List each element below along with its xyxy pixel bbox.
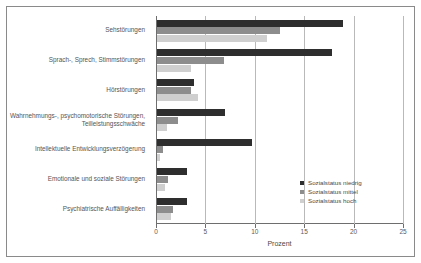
legend-item: Sozialstatus hoch — [300, 196, 362, 205]
category-label: Sehstörungen — [0, 26, 145, 35]
x-axis-tick-label: 25 — [399, 228, 406, 235]
category-label: Sprach-, Sprech, Stimmstörungen — [0, 56, 145, 65]
bar — [157, 176, 168, 183]
x-axis-tick-label: 15 — [301, 228, 308, 235]
bar — [157, 139, 252, 146]
legend-label: Sozialstatus niedrig — [308, 179, 362, 186]
bar — [157, 79, 194, 86]
bar — [157, 49, 332, 56]
category-label: Emotionale und soziale Störungen — [0, 175, 145, 184]
category-label: Psychiatrische Auffälligkeiten — [0, 205, 145, 214]
bar — [157, 94, 198, 101]
plot-area — [156, 16, 403, 224]
bar — [157, 117, 178, 124]
bar — [157, 27, 280, 34]
legend-item: Sozialstatus niedrig — [300, 178, 362, 187]
gridline — [205, 16, 206, 224]
legend-swatch-icon — [300, 181, 304, 185]
legend-label: Sozialstatus hoch — [308, 197, 357, 204]
legend-item: Sozialstatus mittel — [300, 187, 362, 196]
x-axis-tick-label: 20 — [350, 228, 357, 235]
category-axis-labels: SehstörungenSprach-, Sprech, Stimmstörun… — [0, 16, 150, 224]
gridline — [255, 16, 256, 224]
legend-swatch-icon — [300, 199, 304, 203]
legend-swatch-icon — [300, 190, 304, 194]
bar — [157, 109, 225, 116]
bar — [157, 35, 267, 42]
legend-label: Sozialstatus mittel — [308, 188, 358, 195]
x-axis-tick-label: 0 — [154, 228, 158, 235]
bar — [157, 206, 173, 213]
bar — [157, 168, 187, 175]
bar — [157, 154, 160, 161]
category-label: Intellektuelle Entwicklungsverzögerung — [0, 145, 145, 154]
category-label: Hörstörungen — [0, 86, 145, 95]
x-axis-tick-label: 10 — [251, 228, 258, 235]
x-axis-title: Prozent — [156, 240, 403, 247]
x-axis-line — [156, 223, 403, 224]
bar — [157, 213, 171, 220]
bar — [157, 124, 167, 131]
x-axis-tick-label: 5 — [204, 228, 208, 235]
bar — [157, 198, 187, 205]
category-label: Wahrnehmungs-, psychomotorische Störunge… — [0, 112, 145, 129]
bar — [157, 184, 165, 191]
bar — [157, 87, 191, 94]
bar — [157, 146, 163, 153]
gridline — [403, 16, 404, 224]
bar — [157, 57, 224, 64]
chart-figure: SehstörungenSprach-, Sprech, Stimmstörun… — [0, 0, 421, 263]
bar — [157, 20, 343, 27]
legend: Sozialstatus niedrigSozialstatus mittelS… — [300, 178, 362, 205]
bar — [157, 65, 191, 72]
